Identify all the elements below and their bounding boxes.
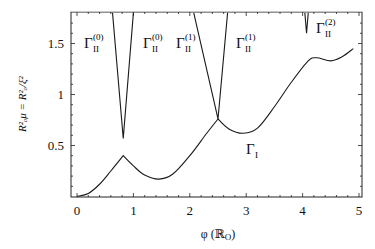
svg-text:(0): (0) bbox=[152, 32, 163, 42]
curve-I bbox=[77, 49, 353, 197]
x-tick-label: 3 bbox=[243, 203, 250, 218]
svg-text:Γ: Γ bbox=[236, 35, 245, 51]
x-tick-label: 2 bbox=[187, 203, 194, 218]
gamma-I-label: ΓI bbox=[246, 141, 258, 160]
svg-text:Γ: Γ bbox=[143, 35, 152, 51]
svg-text:Γ: Γ bbox=[316, 20, 325, 36]
svg-text:(1): (1) bbox=[185, 32, 196, 42]
svg-text:II: II bbox=[93, 44, 99, 54]
x-tick-label: 5 bbox=[356, 203, 363, 218]
x-tick-label: 1 bbox=[130, 203, 137, 218]
gamma-II-0-label-left: ΓII(0) bbox=[84, 32, 104, 54]
curve-II0 bbox=[113, 13, 134, 138]
gamma-II-1-label-right: ΓII(1) bbox=[236, 32, 256, 54]
gamma-II-0-label-right: ΓII(0) bbox=[143, 32, 163, 54]
gamma-II-1-label-left: ΓII(1) bbox=[176, 32, 196, 54]
y-axis-title: R²ₒμ = R²ₒ/ξ² bbox=[16, 75, 29, 133]
svg-text:Γ: Γ bbox=[84, 35, 93, 51]
svg-text:II: II bbox=[152, 44, 158, 54]
svg-text:II: II bbox=[185, 44, 191, 54]
svg-text:(0): (0) bbox=[93, 32, 104, 42]
y-tick-label: 0.5 bbox=[48, 138, 64, 153]
svg-text:Γ: Γ bbox=[246, 141, 255, 157]
curve-II1 bbox=[194, 13, 228, 119]
phase-diagram-chart: 0123450.511.5 ΓII(0)ΓII(0)ΓII(1)ΓII(1)ΓI… bbox=[0, 0, 375, 249]
y-tick-label: 1.5 bbox=[48, 36, 64, 51]
curve-II2 bbox=[305, 13, 308, 33]
curve-annotations: ΓII(0)ΓII(0)ΓII(1)ΓII(1)ΓII(2)ΓI bbox=[84, 17, 336, 160]
svg-text:(1): (1) bbox=[245, 32, 256, 42]
svg-text:I: I bbox=[255, 150, 258, 160]
y-tick-label: 1 bbox=[58, 87, 65, 102]
x-axis-title: φ (ℝO) bbox=[201, 227, 235, 242]
svg-text:(2): (2) bbox=[325, 17, 336, 27]
svg-text:II: II bbox=[325, 29, 331, 39]
x-tick-label: 4 bbox=[299, 203, 306, 218]
svg-text:II: II bbox=[245, 44, 251, 54]
gamma-II-2-label: ΓII(2) bbox=[316, 17, 336, 39]
x-tick-label: 0 bbox=[74, 203, 81, 218]
svg-text:Γ: Γ bbox=[176, 35, 185, 51]
